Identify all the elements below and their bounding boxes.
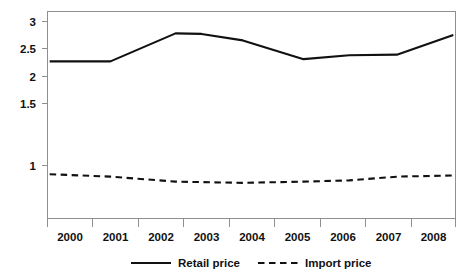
y-tick-label: 3 — [30, 16, 36, 28]
series-line-import-price — [50, 174, 454, 183]
line-chart: 3 2.5 2 1.5 1 — [0, 0, 473, 278]
y-tick-3: 3 — [30, 16, 48, 28]
x-axis: 2000 2001 2002 2003 2004 2005 2006 2007 … — [48, 219, 456, 244]
x-tick-label: 2004 — [239, 231, 265, 243]
series-group — [50, 33, 454, 182]
y-tick-label: 1.5 — [20, 98, 37, 110]
series-line-retail-price — [50, 33, 454, 61]
legend: Retail price Import price — [131, 257, 371, 269]
legend-item-retail-price[interactable]: Retail price — [131, 257, 240, 269]
y-axis: 3 2.5 2 1.5 1 — [20, 16, 48, 172]
x-tick-label: 2001 — [103, 231, 129, 243]
x-tick-label: 2006 — [330, 231, 356, 243]
x-tick-label: 2002 — [148, 231, 174, 243]
y-tick-1p5: 1.5 — [20, 98, 48, 110]
legend-item-import-price[interactable]: Import price — [258, 257, 371, 269]
y-tick-2p5: 2.5 — [20, 43, 48, 55]
y-tick-label: 2 — [30, 71, 36, 83]
y-tick-label: 2.5 — [20, 43, 37, 55]
x-tick-label: 2005 — [285, 231, 311, 243]
legend-label: Import price — [305, 257, 371, 269]
y-tick-label: 1 — [30, 160, 37, 172]
legend-label: Retail price — [178, 257, 240, 269]
x-tick-label: 2007 — [376, 231, 402, 243]
y-tick-1: 1 — [30, 160, 48, 172]
x-tick-label: 2003 — [194, 231, 220, 243]
y-tick-2: 2 — [30, 71, 48, 83]
x-tick-label: 2008 — [421, 231, 447, 243]
x-tick-label: 2000 — [57, 231, 83, 243]
